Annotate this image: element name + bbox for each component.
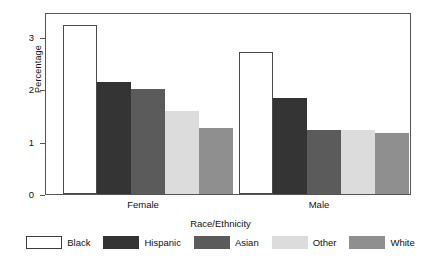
- bar-male-black: [239, 52, 273, 194]
- legend-item-asian: Asian: [194, 236, 259, 249]
- chart-legend: BlackHispanicAsianOtherWhite: [0, 236, 441, 249]
- x-axis-group-label-male: Male: [289, 199, 349, 210]
- legend-label-hispanic: Hispanic: [144, 237, 180, 249]
- legend-swatch-black-icon: [26, 236, 62, 249]
- legend-item-white: White: [349, 236, 414, 249]
- plot-area: [45, 13, 411, 195]
- bar-female-white: [199, 128, 233, 194]
- bar-female-other: [165, 111, 199, 194]
- legend-swatch-other-icon: [272, 236, 308, 249]
- bar-female-black: [63, 25, 97, 194]
- bar-female-asian: [131, 89, 165, 194]
- bar-male-hispanic: [273, 98, 307, 194]
- y-axis-tick-2: 2: [0, 90, 45, 91]
- y-axis-tick-label-0: 0: [29, 189, 34, 200]
- legend-swatch-white-icon: [349, 236, 385, 249]
- y-axis-tick-label-1: 1: [29, 137, 34, 148]
- bar-male-white: [375, 133, 409, 194]
- bar-chart: Percentage 0 1 2 3 Female Male Race/Ethn…: [0, 0, 441, 264]
- legend-label-other: Other: [313, 237, 337, 249]
- y-axis-tick-label-3: 3: [29, 32, 34, 43]
- bar-female-hispanic: [97, 82, 131, 194]
- y-axis-tick-0: 0: [0, 195, 45, 196]
- x-axis-title: Race/Ethnicity: [0, 218, 441, 229]
- legend-label-white: White: [390, 237, 414, 249]
- legend-item-black: Black: [26, 236, 90, 249]
- y-axis-tick-3: 3: [0, 38, 45, 39]
- bar-male-other: [341, 130, 375, 194]
- legend-swatch-asian-icon: [194, 236, 230, 249]
- y-axis-title: Percentage: [33, 9, 43, 129]
- legend-swatch-hispanic-icon: [103, 236, 139, 249]
- legend-label-black: Black: [67, 237, 90, 249]
- legend-item-hispanic: Hispanic: [103, 236, 180, 249]
- legend-label-asian: Asian: [235, 237, 259, 249]
- y-axis-tick-label-2: 2: [29, 84, 34, 95]
- y-axis-tick-1: 1: [0, 143, 45, 144]
- bars-layer: [46, 14, 410, 194]
- legend-item-other: Other: [272, 236, 337, 249]
- x-axis-group-label-female: Female: [113, 199, 173, 210]
- bar-male-asian: [307, 130, 341, 194]
- y-axis-tick-mark-0: [40, 195, 45, 196]
